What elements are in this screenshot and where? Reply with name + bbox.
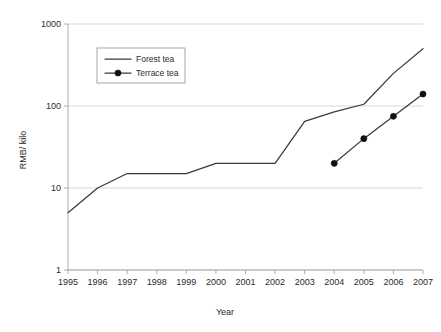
data-point-2006 (390, 113, 396, 119)
data-point-2007 (420, 91, 426, 97)
x-tick-label-2005: 2005 (354, 277, 374, 287)
legend-label-terrace-tea: Terrace tea (136, 68, 179, 78)
x-axis-title: Year (216, 307, 234, 317)
x-tick-label-2003: 2003 (295, 277, 315, 287)
y-tick-label-1000: 1000 (41, 19, 61, 29)
line-chart: 1101001000 19951996199719981999200020012… (0, 0, 441, 332)
chart-legend: Forest teaTerrace tea (97, 48, 185, 83)
x-tick-label-2002: 2002 (265, 277, 285, 287)
x-tick-label-2001: 2001 (235, 277, 255, 287)
legend-label-forest-tea: Forest tea (136, 54, 175, 64)
x-tick-label-2004: 2004 (324, 277, 344, 287)
y-axis-title: RMB/ kilo (18, 131, 28, 170)
y-tick-label-10: 10 (51, 183, 61, 193)
y-tick-label-100: 100 (46, 101, 61, 111)
chart-container: 1101001000 19951996199719981999200020012… (0, 0, 441, 332)
x-tick-label-1995: 1995 (58, 277, 78, 287)
x-tick-label-2000: 2000 (206, 277, 226, 287)
data-point-2005 (361, 136, 367, 142)
x-tick-label-1997: 1997 (117, 277, 137, 287)
x-tick-label-1996: 1996 (88, 277, 108, 287)
x-tick-label-2006: 2006 (383, 277, 403, 287)
x-tick-label-2007: 2007 (413, 277, 433, 287)
legend-marker-terrace-tea (115, 70, 121, 76)
y-tick-label-1: 1 (56, 265, 61, 275)
x-tick-label-1998: 1998 (147, 277, 167, 287)
data-point-2004 (331, 160, 337, 166)
x-tick-label-1999: 1999 (176, 277, 196, 287)
